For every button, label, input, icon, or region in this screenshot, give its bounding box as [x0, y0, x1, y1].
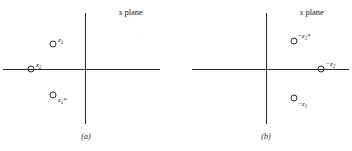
zero-label-nz2-sub: 2 — [333, 63, 336, 69]
zero-label-neg-z1: −z1 — [298, 101, 307, 108]
zero-marker-neg-z1-conjugate — [291, 38, 297, 44]
panel-b-plot — [176, 0, 352, 151]
s-plane-word-text-a: plane — [124, 7, 142, 17]
s-plane-label-b: s plane — [300, 8, 324, 17]
zero-label-nz1c-star: * — [307, 32, 311, 40]
panel-a-plot — [0, 0, 176, 151]
caption-a: (a) — [70, 133, 102, 141]
zero-label-z1: z1 — [58, 37, 63, 44]
zero-label-z2-sub: 2 — [39, 64, 42, 70]
zero-marker-z1 — [50, 41, 56, 47]
zero-label-z2: z2 — [36, 62, 41, 69]
panel-a: s plane z1 z2 z1* (a) — [0, 0, 176, 151]
zero-label-z1-sub: 1 — [61, 39, 64, 45]
s-plane-label-a: s plane — [119, 8, 143, 17]
caption-b: (b) — [250, 133, 282, 141]
zero-marker-neg-z1 — [291, 95, 297, 101]
zero-label-nz1-sub: 1 — [305, 103, 308, 109]
zero-marker-z1-conjugate — [50, 92, 56, 98]
figure-container: s plane z1 z2 z1* (a) s plane −z1* − — [0, 0, 352, 151]
zero-label-neg-z2: −z2 — [326, 61, 335, 68]
zero-label-z1c-star: * — [63, 96, 67, 104]
panel-b: s plane −z1* −z2 −z1 (b) — [176, 0, 352, 151]
zero-label-z1-conjugate: z1* — [58, 97, 67, 104]
zero-label-nz1c-sub: 1 — [305, 35, 308, 41]
zero-label-z1c-sub: 1 — [61, 99, 64, 105]
s-plane-word-text-b: plane — [305, 7, 323, 17]
zero-label-neg-z1-conjugate: −z1* — [298, 33, 311, 40]
scan-speck — [141, 33, 142, 34]
